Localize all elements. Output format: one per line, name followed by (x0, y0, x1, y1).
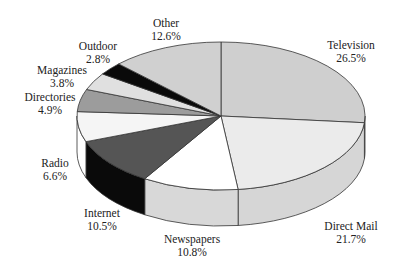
slice-label-value: 10.5% (84, 220, 120, 233)
slice-label-name: Newspapers (164, 233, 220, 246)
slice-label-newspapers: Newspapers10.8% (164, 233, 220, 259)
slice-label-internet: Internet10.5% (84, 207, 120, 233)
slice-label-value: 21.7% (324, 233, 377, 246)
slice-label-name: Internet (84, 207, 120, 220)
slice-label-name: Directories (24, 91, 75, 104)
slice-label-value: 3.8% (37, 77, 87, 90)
slice-label-name: Direct Mail (324, 220, 377, 233)
slice-label-value: 26.5% (327, 52, 375, 65)
slice-label-magazines: Magazines3.8% (37, 64, 87, 90)
slice-label-name: Outdoor (79, 40, 117, 53)
slice-label-value: 6.6% (41, 170, 68, 183)
slice-label-directories: Directories4.9% (24, 91, 75, 117)
slice-label-other: Other12.6% (151, 17, 181, 43)
slice-label-value: 10.8% (164, 246, 220, 259)
slice-label-name: Other (151, 17, 181, 30)
slice-label-name: Television (327, 39, 375, 52)
slice-label-direct-mail: Direct Mail21.7% (324, 220, 377, 246)
slice-label-name: Radio (41, 157, 68, 170)
slice-label-value: 4.9% (24, 104, 75, 117)
slice-label-television: Television26.5% (327, 39, 375, 65)
slice-label-outdoor: Outdoor2.8% (79, 40, 117, 66)
slice-label-value: 2.8% (79, 53, 117, 66)
pie-tops (77, 42, 365, 190)
slice-label-value: 12.6% (151, 30, 181, 43)
slice-label-radio: Radio6.6% (41, 157, 68, 183)
